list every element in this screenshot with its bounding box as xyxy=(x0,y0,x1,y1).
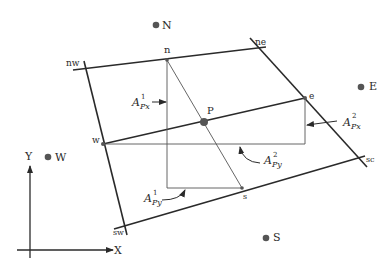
node-N xyxy=(153,22,160,29)
A1py-sub: Py xyxy=(151,198,162,207)
face-e-point xyxy=(303,96,307,100)
node-E xyxy=(358,84,365,91)
A2px-sup: 2 xyxy=(352,112,356,120)
A2py-sub: Py xyxy=(271,160,282,169)
area-A1px: APx 1 xyxy=(131,93,166,111)
face-w-point xyxy=(101,142,105,146)
label-e: e xyxy=(309,91,314,101)
label-N: N xyxy=(162,19,172,32)
A1py-sup: 1 xyxy=(153,189,157,197)
cell-faces xyxy=(73,38,367,235)
label-ne: ne xyxy=(255,37,266,47)
label-se: sc xyxy=(366,155,375,164)
A1py-base: A xyxy=(143,192,152,205)
A2py-arrow xyxy=(240,147,260,163)
label-w: w xyxy=(92,135,100,145)
label-n: n xyxy=(164,44,171,55)
face-s-point xyxy=(240,186,244,190)
area-A2px: APx 2 xyxy=(307,112,361,131)
label-W: W xyxy=(55,151,67,164)
node-W xyxy=(45,154,52,161)
label-P: P xyxy=(207,105,214,116)
A1px-base: A xyxy=(131,96,140,109)
label-nw: nw xyxy=(66,58,80,68)
east-face xyxy=(250,38,367,167)
A2py-base: A xyxy=(263,154,272,167)
west-face xyxy=(84,61,127,235)
y-axis-label: Y xyxy=(24,150,33,163)
label-S: S xyxy=(273,231,281,244)
node-S xyxy=(263,235,270,242)
area-A1py: APy 1 xyxy=(143,189,185,207)
face-n-point xyxy=(165,58,169,62)
A1px-sub: Px xyxy=(139,102,150,111)
A2px-sub: Px xyxy=(350,122,361,131)
control-volume-diagram: Y X N E W S P n e w s nw ne sw xyxy=(0,0,391,276)
label-s: s xyxy=(243,192,247,201)
label-E: E xyxy=(369,80,377,93)
A2px-arrow xyxy=(307,121,337,125)
area-A2py: APy 2 xyxy=(240,147,282,169)
A1py-arrow xyxy=(162,190,185,200)
label-sw: sw xyxy=(113,228,124,237)
coordinate-axes: Y X xyxy=(17,150,122,258)
A2px-base: A xyxy=(342,116,351,129)
A2py-sup: 2 xyxy=(273,151,277,159)
x-axis-label: X xyxy=(114,244,122,257)
node-P xyxy=(200,118,208,126)
A1px-sup: 1 xyxy=(141,93,145,101)
